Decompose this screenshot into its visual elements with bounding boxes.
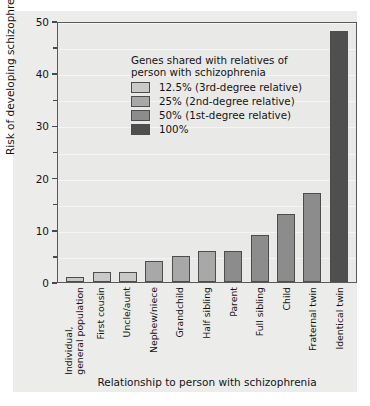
legend-swatch — [131, 110, 150, 121]
y-tick-label: 50 — [36, 16, 49, 28]
x-axis-title: Relationship to person with schizophreni… — [57, 376, 357, 388]
y-tick-label: 0 — [42, 277, 49, 289]
x-tick-label: Parent — [228, 287, 239, 317]
legend-item: 12.5% (3rd-degree relative) — [131, 81, 346, 93]
x-tick-label: Individual,general population — [64, 287, 85, 375]
bar — [145, 261, 163, 282]
legend-title: Genes shared with relatives of person wi… — [131, 54, 346, 78]
x-label-slot: First cousin — [88, 285, 115, 377]
x-label-slot: Individual,general population — [61, 285, 88, 377]
x-label-slot: Parent — [220, 285, 247, 377]
x-axis-labels: Individual,general populationFirst cousi… — [57, 285, 357, 377]
bar-slot — [88, 23, 114, 282]
legend-swatch — [131, 96, 150, 107]
legend-item: 50% (1st-degree relative) — [131, 109, 346, 121]
y-tick-label: 40 — [36, 68, 49, 80]
x-label-slot: Grandchild — [167, 285, 194, 377]
legend-swatch — [131, 124, 150, 135]
legend-item: 25% (2nd-degree relative) — [131, 95, 346, 107]
y-tick-label: 20 — [36, 173, 49, 185]
x-tick-label: Identical twin — [334, 287, 345, 350]
x-label-slot: Fraternal twin — [300, 285, 327, 377]
x-label-slot: Full sibling — [247, 285, 274, 377]
bar-slot — [62, 23, 88, 282]
legend-label: 50% (1st-degree relative) — [159, 109, 291, 121]
bar — [93, 272, 111, 282]
bar — [277, 214, 295, 282]
x-tick-label: Uncle/aunt — [122, 287, 133, 337]
figure-root: Risk of developing schizophrenia (%) 010… — [0, 0, 370, 406]
legend-title-line1: Genes shared with relatives of — [131, 54, 288, 66]
x-tick-label: Nephew/niece — [149, 287, 160, 353]
x-tick-label: Full sibling — [255, 287, 266, 336]
bar — [224, 251, 242, 282]
x-tick-label: First cousin — [96, 287, 107, 340]
x-tick-label: Child — [281, 287, 292, 310]
x-label-slot: Child — [273, 285, 300, 377]
y-tick-label: 30 — [36, 120, 49, 132]
x-label-slot: Nephew/niece — [141, 285, 168, 377]
bar — [66, 277, 84, 282]
x-tick-label: Grandchild — [175, 287, 186, 338]
legend-label: 12.5% (3rd-degree relative) — [159, 81, 302, 93]
plot-area: Genes shared with relatives of person wi… — [57, 22, 357, 283]
legend-swatch — [131, 82, 150, 93]
bar — [172, 256, 190, 282]
bar — [251, 235, 269, 282]
bar — [198, 251, 216, 282]
legend-items: 12.5% (3rd-degree relative)25% (2nd-degr… — [131, 81, 346, 135]
x-label-slot: Uncle/aunt — [114, 285, 141, 377]
y-tick-label: 10 — [36, 225, 49, 237]
legend-label: 25% (2nd-degree relative) — [159, 95, 295, 107]
x-tick-label: Fraternal twin — [308, 287, 319, 351]
bar — [119, 272, 137, 282]
x-tick-label: Half sibling — [202, 287, 213, 339]
x-label-slot: Identical twin — [326, 285, 353, 377]
legend: Genes shared with relatives of person wi… — [131, 54, 346, 137]
legend-title-line2: person with schizophrenia — [131, 66, 266, 78]
legend-item: 100% — [131, 123, 346, 135]
bar — [303, 193, 321, 282]
y-axis-title: Risk of developing schizophrenia (%) — [4, 0, 16, 155]
legend-label: 100% — [159, 123, 188, 135]
x-label-slot: Half sibling — [194, 285, 221, 377]
